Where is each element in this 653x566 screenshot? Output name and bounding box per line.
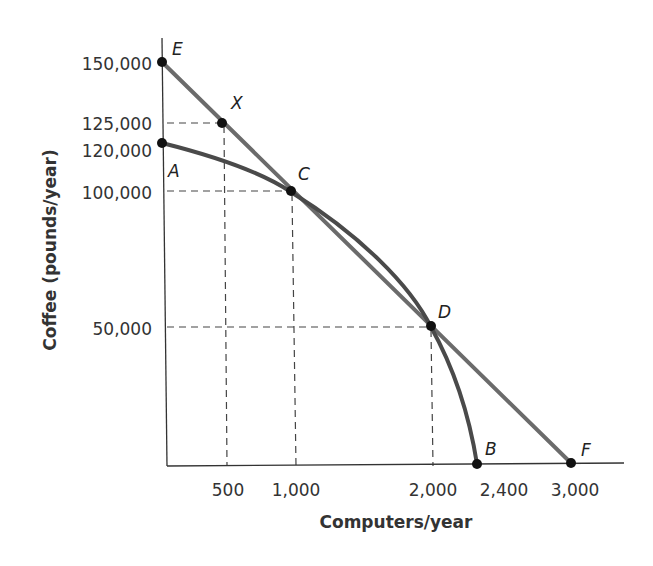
x-tick-1000: 1,000	[272, 480, 321, 500]
point-D	[426, 321, 436, 331]
y-tick-50000: 50,000	[93, 319, 152, 339]
y-axis-title: Coffee (pounds/year)	[40, 149, 60, 350]
label-A: A	[167, 161, 180, 181]
x-tick-2400: 2,400	[480, 480, 529, 500]
y-axis	[162, 38, 167, 466]
y-tick-150000: 150,000	[82, 54, 152, 74]
x-axis	[167, 463, 624, 466]
y-tick-100000: 100,000	[82, 183, 152, 203]
x-tick-3000: 3,000	[551, 480, 600, 500]
point-C	[286, 186, 296, 196]
label-E: E	[172, 39, 183, 59]
label-C: C	[298, 164, 310, 184]
ppf-chart: E X A C D B F 150,000 125,000 120,000 10…	[0, 0, 653, 566]
point-A	[157, 138, 167, 148]
label-F: F	[581, 440, 591, 460]
point-B	[472, 459, 482, 469]
label-B: B	[485, 439, 497, 459]
y-tick-120000: 120,000	[82, 141, 152, 161]
x-axis-title: Computers/year	[320, 512, 474, 532]
point-F	[566, 458, 576, 468]
label-D: D	[438, 302, 451, 322]
x-tick-500: 500	[212, 480, 244, 500]
y-tick-125000: 125,000	[82, 114, 152, 134]
label-X: X	[230, 93, 243, 113]
x-tick-2000: 2,000	[409, 480, 458, 500]
point-X	[217, 118, 227, 128]
point-E	[157, 57, 167, 67]
